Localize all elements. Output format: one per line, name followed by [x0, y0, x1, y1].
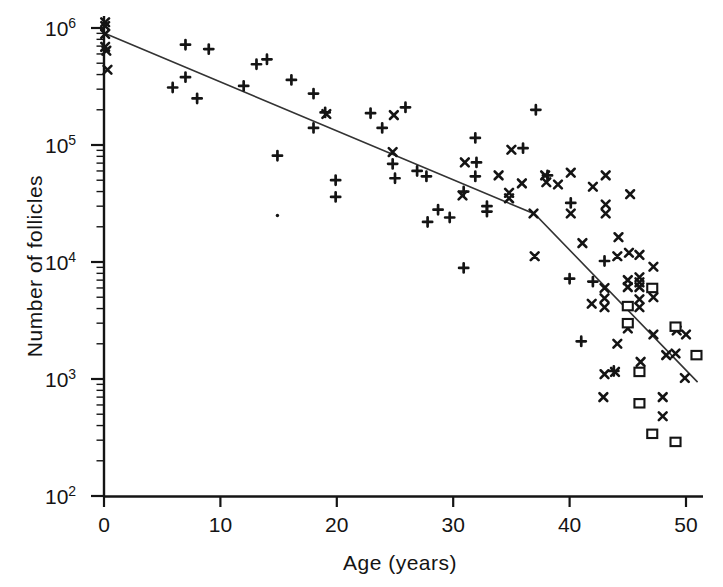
cross-marker	[589, 183, 597, 191]
cross-marker	[625, 249, 633, 257]
plus-marker	[577, 337, 586, 346]
cross-marker	[530, 210, 538, 218]
cross-marker	[662, 351, 670, 359]
x-tick-label: 10	[209, 513, 232, 536]
square-marker	[634, 368, 644, 376]
square-marker	[623, 319, 633, 327]
x-tick-label: 20	[325, 513, 348, 536]
plus-marker	[204, 45, 213, 54]
plus-marker	[193, 94, 202, 103]
cross-marker	[518, 179, 526, 187]
cross-marker	[650, 293, 658, 301]
plus-marker	[445, 213, 454, 222]
square-marker	[671, 438, 681, 446]
cross-marker	[588, 300, 596, 308]
dot-marker	[276, 214, 279, 217]
cross-marker	[601, 294, 609, 302]
x-tick-label: 0	[98, 513, 110, 536]
plus-marker	[413, 166, 422, 175]
cross-marker	[554, 181, 562, 189]
cross-marker	[624, 283, 632, 291]
y-axis-label: Number of follicles	[23, 116, 49, 416]
plus-marker	[600, 256, 609, 265]
y-tick-label: 105	[45, 132, 76, 157]
plus-marker	[471, 133, 480, 142]
cross-marker	[602, 210, 610, 218]
plus-marker	[309, 123, 318, 132]
plus-marker	[422, 172, 431, 181]
plus-marker	[566, 198, 575, 207]
follicle-scatter-plot: 10610510410310201020304050	[0, 0, 723, 587]
cross-marker	[626, 190, 634, 198]
cross-marker	[579, 239, 587, 247]
cross-marker	[390, 111, 398, 119]
plus-marker	[378, 123, 387, 132]
cross-marker	[531, 252, 539, 260]
plus-marker	[531, 105, 540, 114]
plus-marker	[168, 83, 177, 92]
plus-marker	[287, 75, 296, 84]
plus-marker	[482, 207, 491, 216]
plus-marker	[565, 274, 574, 283]
plus-marker	[262, 55, 271, 64]
cross-marker	[567, 210, 575, 218]
square-marker	[647, 284, 657, 292]
cross-marker	[659, 412, 667, 420]
plus-marker	[239, 81, 248, 90]
x-tick-label: 30	[442, 513, 465, 536]
plus-marker	[401, 103, 410, 112]
cross-marker	[650, 263, 658, 271]
plus-marker	[471, 172, 480, 181]
square-marker	[647, 430, 657, 438]
cross-marker	[505, 194, 513, 202]
cross-marker	[599, 393, 607, 401]
plus-marker	[459, 263, 468, 272]
cross-marker	[659, 393, 667, 401]
figure-canvas: 10610510410310201020304050 Number of fol…	[0, 0, 723, 587]
y-tick-label: 102	[45, 483, 76, 508]
square-marker	[634, 399, 644, 407]
cross-marker	[681, 374, 689, 382]
plus-marker	[423, 217, 432, 226]
square-marker	[691, 351, 701, 359]
cross-marker	[636, 251, 644, 259]
plus-marker	[433, 205, 442, 214]
cross-marker	[602, 201, 610, 209]
plus-marker	[181, 40, 190, 49]
cross-marker	[567, 169, 575, 177]
plus-marker	[518, 144, 527, 153]
cross-marker	[682, 331, 690, 339]
plus-marker	[309, 89, 318, 98]
plus-marker	[252, 60, 261, 69]
cross-marker	[636, 295, 644, 303]
x-axis-label: Age (years)	[250, 551, 550, 577]
cross-marker	[601, 370, 609, 378]
cross-marker	[613, 340, 621, 348]
cross-marker	[672, 350, 680, 358]
square-marker	[671, 322, 681, 330]
x-tick-label: 40	[558, 513, 581, 536]
cross-marker	[602, 171, 610, 179]
plus-marker	[366, 109, 375, 118]
cross-marker	[495, 171, 503, 179]
plus-marker	[331, 192, 340, 201]
plus-marker	[181, 73, 190, 82]
plus-marker	[273, 151, 282, 160]
cross-marker	[461, 159, 469, 167]
cross-marker	[613, 252, 621, 260]
cross-marker	[636, 283, 644, 291]
y-tick-label: 103	[45, 366, 76, 391]
plus-marker	[388, 159, 397, 168]
cross-marker	[636, 303, 644, 311]
cross-marker	[637, 358, 645, 366]
plus-marker	[390, 174, 399, 183]
square-marker	[623, 302, 633, 310]
cross-marker	[601, 303, 609, 311]
cross-marker	[615, 233, 623, 241]
plus-marker	[472, 158, 481, 167]
x-tick-label: 50	[674, 513, 697, 536]
cross-marker	[508, 146, 516, 154]
plus-marker	[331, 176, 340, 185]
y-tick-label: 106	[45, 15, 76, 40]
y-tick-label: 104	[45, 249, 76, 274]
